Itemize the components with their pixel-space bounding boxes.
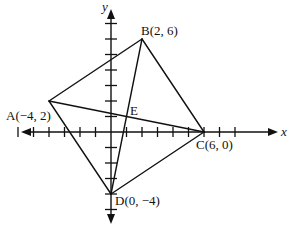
label-point-d: D(0, −4) (115, 193, 160, 208)
segment-bc (142, 39, 204, 132)
segment-cd (111, 132, 204, 194)
label-point-e: E (130, 103, 138, 118)
segment-da (49, 101, 111, 194)
y-axis-arrow-down-icon (107, 214, 115, 224)
y-axis-arrow-up-icon (107, 9, 115, 19)
label-point-c: C(6, 0) (196, 137, 233, 152)
coordinate-diagram: x y A(−4, 2) B(2, 6) C(6, 0) D(0, −4) E (0, 0, 291, 229)
y-axis-label: y (100, 0, 108, 14)
quadrilateral-segments (49, 39, 204, 194)
segment-ab (49, 39, 142, 101)
label-point-a: A(−4, 2) (6, 108, 51, 123)
x-axis-arrow-right-icon (268, 128, 278, 136)
x-axis-arrow-left-icon (21, 128, 31, 136)
label-point-b: B(2, 6) (141, 23, 178, 38)
x-axis: x (18, 124, 287, 139)
x-axis-label: x (280, 124, 287, 139)
